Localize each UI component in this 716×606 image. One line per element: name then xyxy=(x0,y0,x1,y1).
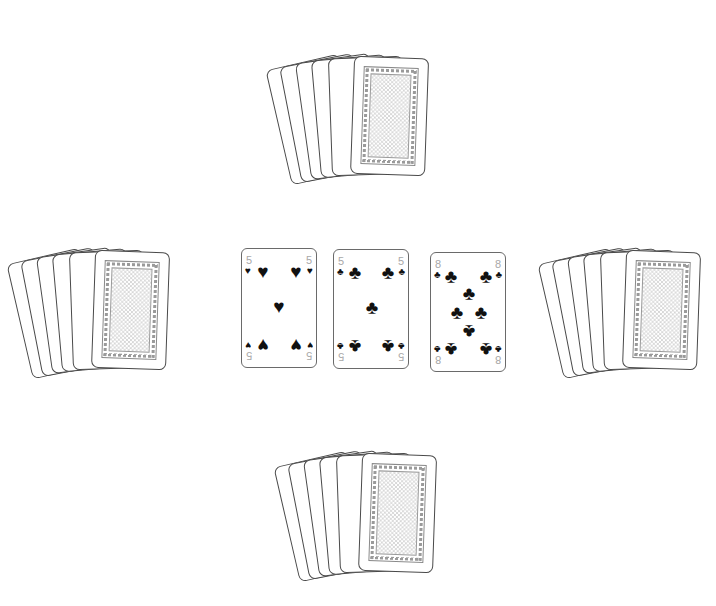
heart-icon: ♥ xyxy=(286,336,306,355)
club-icon: ♣ xyxy=(345,263,365,282)
club-icon: ♣ xyxy=(476,340,496,359)
card-back-pattern xyxy=(109,267,153,352)
card-back-front[interactable] xyxy=(622,250,701,371)
heart-icon: ♥ xyxy=(253,336,273,355)
heart-icon: ♥ xyxy=(245,340,251,350)
card-back-front[interactable] xyxy=(358,453,437,574)
club-icon: ♣ xyxy=(378,263,398,282)
played-card-5-hearts[interactable]: 5 5 5 5 ♥ ♥ ♥ ♥ ♥ ♥ ♥ ♥ ♥ xyxy=(241,248,317,368)
club-icon: ♣ xyxy=(434,344,441,354)
club-icon: ♣ xyxy=(345,337,365,356)
club-icon: ♣ xyxy=(495,344,502,354)
rank-label: 5 xyxy=(246,350,252,361)
rank-label: 5 xyxy=(306,350,312,361)
club-icon: ♣ xyxy=(434,270,441,280)
played-card-8-clubs[interactable]: 8 8 8 8 ♣ ♣ ♣ ♣ ♣ ♣ ♣ ♣ ♣ ♣ ♣ ♣ xyxy=(430,252,506,372)
club-icon: ♣ xyxy=(476,267,496,286)
club-icon: ♣ xyxy=(362,298,382,317)
club-icon: ♣ xyxy=(459,322,479,341)
club-icon: ♣ xyxy=(447,303,467,322)
club-icon: ♣ xyxy=(398,341,405,351)
card-back-front[interactable] xyxy=(350,56,429,177)
heart-icon: ♥ xyxy=(307,266,313,276)
heart-icon: ♥ xyxy=(307,340,313,350)
club-icon: ♣ xyxy=(398,267,405,277)
heart-icon: ♥ xyxy=(245,266,251,276)
club-icon: ♣ xyxy=(459,284,479,303)
club-icon: ♣ xyxy=(337,267,344,277)
club-icon: ♣ xyxy=(378,337,398,356)
club-icon: ♣ xyxy=(441,267,461,286)
rank-label: 5 xyxy=(398,351,404,362)
card-back-pattern xyxy=(368,73,412,158)
rank-label: 5 xyxy=(338,351,344,362)
played-card-5-clubs[interactable]: 5 5 5 5 ♣ ♣ ♣ ♣ ♣ ♣ ♣ ♣ ♣ xyxy=(333,249,409,369)
card-table: 5 5 5 5 ♥ ♥ ♥ ♥ ♥ ♥ ♥ ♥ ♥ 5 5 5 5 ♣ ♣ ♣ … xyxy=(0,0,716,606)
heart-icon: ♥ xyxy=(269,297,289,316)
club-icon: ♣ xyxy=(337,341,344,351)
card-back-pattern xyxy=(376,470,420,555)
heart-icon: ♥ xyxy=(286,262,306,281)
club-icon: ♣ xyxy=(495,270,502,280)
club-icon: ♣ xyxy=(471,303,491,322)
card-back-pattern xyxy=(640,267,684,352)
club-icon: ♣ xyxy=(441,340,461,359)
heart-icon: ♥ xyxy=(253,262,273,281)
card-back-front[interactable] xyxy=(91,250,170,371)
